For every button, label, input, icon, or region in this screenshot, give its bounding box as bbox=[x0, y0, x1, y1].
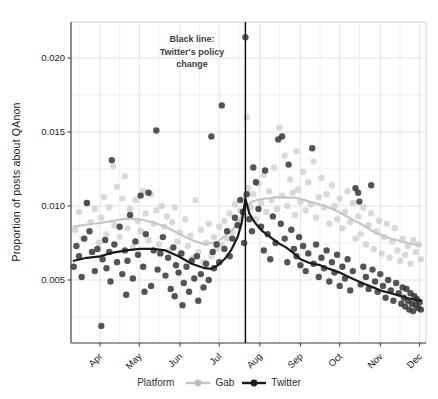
platform-legend: Platform Gab Twitter bbox=[0, 377, 438, 388]
svg-text:0.010: 0.010 bbox=[41, 200, 65, 211]
svg-text:0.020: 0.020 bbox=[41, 52, 65, 63]
gab-key-icon bbox=[185, 378, 211, 388]
svg-text:Aug: Aug bbox=[245, 351, 265, 371]
svg-text:Nov: Nov bbox=[365, 350, 385, 370]
qanon-proportion-figure: Proportion of posts about QAnon AprMayJu… bbox=[0, 0, 438, 399]
annotation-line-1: Black line: bbox=[138, 33, 246, 46]
svg-text:Sep: Sep bbox=[285, 351, 305, 371]
annotation-line-2: Twitter's policy bbox=[138, 46, 246, 59]
legend-item-twitter: Twitter bbox=[241, 377, 300, 388]
x-tick-labels: AprMayJunJulAugSepOctNovDec bbox=[86, 350, 424, 371]
y-tick-labels: 0.0050.0100.0150.020 bbox=[41, 52, 65, 285]
svg-text:0.015: 0.015 bbox=[41, 126, 65, 137]
svg-text:Apr: Apr bbox=[86, 351, 104, 369]
legend-item-gab: Gab bbox=[185, 377, 234, 388]
svg-text:Oct: Oct bbox=[326, 350, 344, 368]
svg-text:Dec: Dec bbox=[404, 350, 424, 370]
twitter-key-icon bbox=[241, 378, 267, 388]
policy-change-annotation: Black line: Twitter's policy change bbox=[138, 33, 246, 71]
legend-label-twitter: Twitter bbox=[271, 377, 300, 388]
annotation-line-3: change bbox=[138, 58, 246, 71]
svg-text:May: May bbox=[123, 350, 144, 371]
legend-title: Platform bbox=[137, 377, 174, 388]
svg-text:Jun: Jun bbox=[166, 351, 185, 370]
svg-text:0.005: 0.005 bbox=[41, 274, 65, 285]
svg-text:Jul: Jul bbox=[207, 351, 223, 367]
legend-label-gab: Gab bbox=[215, 377, 234, 388]
